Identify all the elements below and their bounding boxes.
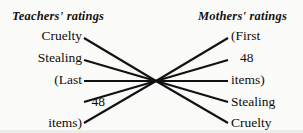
right-connector-4: [156, 81, 228, 102]
left-item-cruelty: Cruelty: [42, 29, 83, 43]
correspondence-diagram: Teachers' ratings Mothers' ratings Cruel…: [0, 0, 303, 133]
right-item-cruelty: Cruelty: [231, 116, 272, 130]
left-item-items-close: items): [48, 116, 82, 130]
left-column-title: Teachers' ratings: [12, 9, 104, 24]
right-item-stealing: Stealing: [231, 95, 275, 109]
right-connector-5: [156, 81, 228, 123]
right-connector-2: [156, 60, 228, 81]
left-connector-2: [84, 60, 156, 81]
right-connector-1: [156, 38, 228, 81]
left-item-stealing: Stealing: [38, 51, 82, 65]
left-connector-1: [84, 38, 156, 81]
left-item-last-open: (Last: [54, 73, 82, 87]
right-column-title: Mothers' ratings: [198, 9, 287, 24]
right-item-items-close: items): [231, 73, 265, 87]
left-item-48: 48: [92, 95, 106, 109]
page-edge-shadow: [0, 130, 303, 133]
right-item-48: 48: [240, 51, 254, 65]
right-item-first-open: (First: [231, 29, 260, 43]
